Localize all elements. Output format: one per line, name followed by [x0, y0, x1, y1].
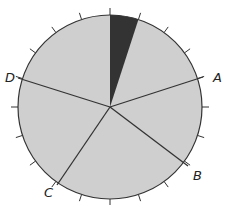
tick-mark	[164, 27, 168, 33]
tick-mark	[164, 181, 168, 187]
label-d: D	[5, 70, 15, 85]
tick-mark	[138, 13, 140, 20]
circle-diagram-svg: ABCD	[0, 0, 230, 205]
tick-mark	[197, 135, 204, 137]
circle-diagram: ABCD	[0, 0, 230, 205]
label-b: B	[193, 168, 202, 183]
tick-mark	[79, 13, 81, 20]
tick-mark	[79, 194, 81, 201]
label-a: A	[212, 70, 222, 85]
tick-mark	[16, 135, 23, 137]
tick-mark	[30, 49, 36, 53]
tick-mark	[52, 27, 56, 33]
tick-mark	[30, 161, 36, 165]
tick-mark	[184, 49, 190, 53]
tick-mark	[138, 194, 140, 201]
label-c: C	[44, 185, 54, 200]
